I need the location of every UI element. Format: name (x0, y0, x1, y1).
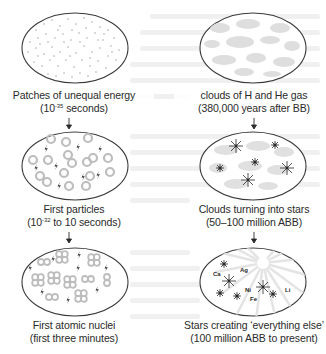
stage-time: (100 million ABB to present) (174, 332, 326, 345)
stage-patches-illustration (22, 13, 128, 83)
stage-title: Patches of unequal energy (0, 89, 154, 102)
stage-time: (380,000 years after BB) (174, 102, 326, 115)
arrow-down-icon (67, 118, 72, 129)
stage-title: First particles (0, 203, 154, 216)
stage-title: First atomic nuclei (0, 319, 154, 332)
stage-gas-clouds-illustration (200, 13, 306, 83)
element-ag: Ag (240, 267, 248, 273)
element-ca: Ca (213, 271, 221, 277)
stage-nuclei-illustration (22, 248, 128, 316)
stage-title: Stars creating ‘everything else’ (174, 319, 326, 332)
stage-patches-label: Patches of unequal energy (10-35 seconds… (0, 89, 154, 115)
stage-gas-clouds-label: clouds of H and He gas (380,000 years af… (174, 89, 326, 115)
stage-stars-forming-label: Clouds turning into stars (50–100 millio… (174, 203, 326, 229)
element-li: Li (285, 287, 291, 293)
arrow-down-icon (252, 118, 257, 129)
stage-everything-else-illustration: Ca Ag Ni Fe Li (200, 244, 310, 320)
stage-title: clouds of H and He gas (174, 89, 326, 102)
element-ni: Ni (245, 287, 251, 293)
stage-time: (first three minutes) (0, 332, 154, 345)
cosmic-timeline-diagram: Ca Ag Ni Fe Li (0, 0, 326, 354)
stage-everything-else-label: Stars creating ‘everything else’ (100 mi… (174, 319, 326, 345)
stage-stars-forming-illustration (200, 132, 306, 200)
stage-particles-illustration (22, 132, 128, 200)
stage-nuclei-label: First atomic nuclei (first three minutes… (0, 319, 154, 345)
element-fe: Fe (250, 296, 258, 302)
stage-title: Clouds turning into stars (174, 203, 326, 216)
stage-time: (50–100 million ABB) (174, 216, 326, 229)
stage-particles-label: First particles (10-32 to 10 seconds) (0, 203, 154, 229)
stage-time: (10-35 seconds) (0, 102, 154, 115)
arrow-down-icon (252, 232, 257, 243)
arrow-down-icon (67, 232, 72, 243)
stage-time: (10-32 to 10 seconds) (0, 216, 154, 229)
